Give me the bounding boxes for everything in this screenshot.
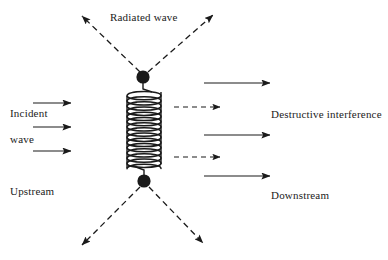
diagram-canvas <box>0 0 388 260</box>
bottom-node-icon <box>137 174 150 187</box>
ray-lower-left-icon <box>82 187 140 245</box>
interference-arrows-group <box>174 107 220 157</box>
coil-spring-icon <box>127 91 161 168</box>
ray-upper-right-icon <box>148 15 213 72</box>
downstream-label: Downstream <box>271 189 329 201</box>
radiated-wave-label: Radiated wave <box>110 11 178 23</box>
downstream-arrows-group <box>204 83 270 176</box>
ray-lower-right-icon <box>149 187 203 243</box>
wave-label: wave <box>10 133 34 145</box>
upstream-label: Upstream <box>10 185 54 197</box>
ray-upper-left-icon <box>82 16 140 72</box>
destructive-interference-label: Destructive interference <box>271 108 382 120</box>
top-node-icon <box>136 70 149 83</box>
physics-diagram: Radiated wave Incident wave Upstream Des… <box>0 0 388 260</box>
incident-label: Incident <box>10 107 48 119</box>
radiated-rays-group <box>82 15 213 245</box>
